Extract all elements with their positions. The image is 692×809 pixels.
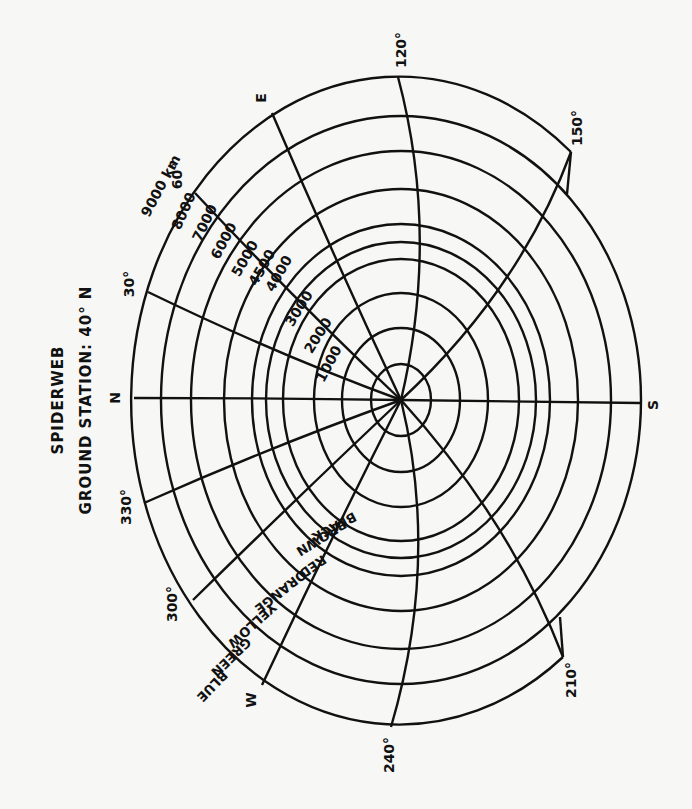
azimuth-label-W: W — [243, 692, 259, 707]
title-ground-station: GROUND STATION: 40° N — [77, 286, 95, 515]
azimuth-label-150deg: 150° — [569, 110, 585, 146]
azimuth-label-120deg: 120° — [393, 32, 409, 68]
azimuth-label-N: N — [107, 392, 123, 404]
spoke-S — [401, 400, 640, 403]
spiderweb-diagram: SPIDERWEB GROUND STATION: 40° N 10002000… — [0, 0, 692, 809]
diagram-title: SPIDERWEB GROUND STATION: 40° N — [49, 286, 95, 515]
azimuth-label-30deg: 30° — [121, 271, 137, 297]
color-band-labels: BLACKBROWNREDORANGEYELLOWGREENBLUE — [194, 509, 359, 705]
azimuth-label-330deg: 330° — [118, 489, 134, 525]
azimuth-label-300deg: 300° — [164, 586, 180, 622]
azimuth-label-E: E — [253, 93, 269, 103]
spoke-120deg — [398, 77, 420, 400]
azimuth-label-60deg: 60° — [169, 163, 185, 189]
spoke-240deg — [391, 400, 418, 727]
spoke-N — [134, 398, 401, 400]
spoke-W — [262, 400, 401, 685]
azimuth-label-210deg: 210° — [563, 662, 579, 698]
azimuth-label-S: S — [645, 400, 661, 410]
azimuth-label-240deg: 240° — [381, 737, 397, 773]
title-spiderweb: SPIDERWEB — [49, 346, 67, 455]
